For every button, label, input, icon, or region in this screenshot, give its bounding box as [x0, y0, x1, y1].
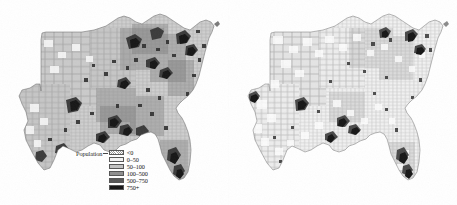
legend-row: 100–500	[109, 170, 147, 177]
legend-items: <0 0–50 50–100 100–500	[109, 149, 147, 191]
legend-swatch-50-100	[109, 164, 124, 170]
legend-label-500-750: 500–750	[127, 177, 148, 184]
legend-label-0-50: 0–50	[127, 156, 139, 163]
legend-label-100-500: 100–500	[127, 170, 148, 177]
panel-b-map	[229, 0, 457, 205]
legend-swatch-100-500	[109, 171, 124, 177]
legend-row: 0–50	[109, 156, 147, 163]
figure-two-panel-choropleth: (a)	[0, 0, 457, 205]
legend-label-lt0: <0	[127, 149, 133, 156]
legend-row: <0	[109, 149, 147, 156]
legend-title: Population	[76, 149, 102, 157]
legend-panel-a: Population <0 0–50 50–100	[76, 149, 148, 191]
legend-row: 500–750	[109, 177, 147, 184]
panel-a: (a)	[0, 0, 228, 205]
legend-swatch-500-750	[109, 178, 124, 184]
legend-leader-dash	[103, 153, 108, 154]
legend-swatch-lt0	[109, 150, 124, 156]
legend-swatch-0-50	[109, 157, 124, 163]
legend-label-50-100: 50–100	[127, 163, 145, 170]
legend-row: 50–100	[109, 163, 147, 170]
legend-row: 750+	[109, 184, 147, 191]
legend-label-750plus: 750+	[127, 184, 139, 191]
legend-swatch-750plus	[109, 185, 124, 191]
panel-b: (b)	[229, 0, 457, 205]
